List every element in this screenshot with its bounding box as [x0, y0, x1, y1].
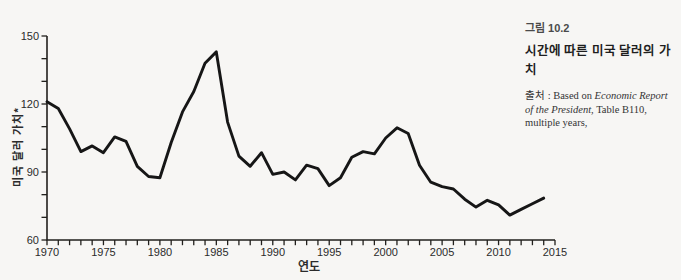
figure-page: 1501209060197019751980198519901995200020…	[0, 0, 681, 280]
figure-source: 출처 : Based on Economic Report of the Pre…	[525, 89, 677, 130]
x-tick-label: 2005	[430, 246, 454, 258]
x-tick-label: 1985	[204, 246, 228, 258]
x-axis-title: 연도	[298, 257, 320, 274]
y-axis-title: 미국 달러 가치*	[9, 107, 25, 186]
x-tick-label: 2015	[543, 246, 567, 258]
x-tick-label: 1975	[91, 246, 115, 258]
axes	[47, 36, 555, 240]
x-tick-label: 1970	[35, 246, 59, 258]
figure-caption: 그림 10.2 시간에 따른 미국 달러의 가치 출처 : Based on E…	[525, 19, 677, 130]
dollar-value-line	[47, 52, 544, 215]
y-tick-label: 150	[21, 30, 39, 42]
x-tick-label: 1995	[317, 246, 341, 258]
source-text: Based on	[553, 90, 594, 101]
figure-title: 시간에 따른 미국 달러의 가치	[525, 40, 677, 78]
x-tick-label: 1980	[148, 246, 172, 258]
source-label: 출처 :	[525, 90, 553, 101]
x-tick-label: 2000	[373, 246, 397, 258]
y-tick-label: 90	[27, 166, 39, 178]
figure-number: 그림 10.2	[525, 19, 677, 35]
x-tick-label: 1990	[261, 246, 285, 258]
y-tick-label: 60	[27, 234, 39, 246]
x-tick-label: 2010	[486, 246, 510, 258]
